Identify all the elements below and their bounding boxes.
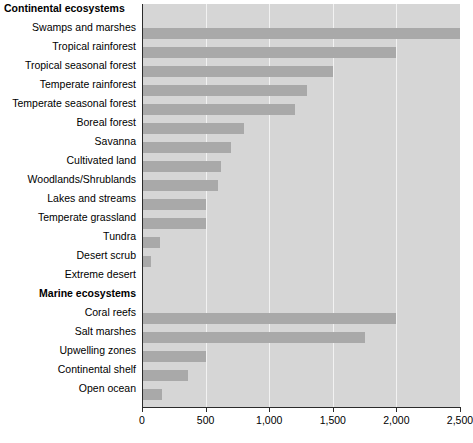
y-axis-line <box>142 4 143 408</box>
bar <box>142 142 231 153</box>
bar <box>142 180 218 191</box>
category-label: Savanna <box>0 135 136 147</box>
axis-tick-label: 2,500 <box>447 414 473 426</box>
bar <box>142 199 206 210</box>
category-label: Cultivated land <box>0 154 136 166</box>
bar <box>142 28 460 39</box>
category-label: Open ocean <box>0 382 136 394</box>
bar <box>142 123 244 134</box>
category-label: Continental shelf <box>0 363 136 375</box>
category-label: Temperate seasonal forest <box>0 97 136 109</box>
category-label: Desert scrub <box>0 249 136 261</box>
category-label-column: Continental ecosystemsSwamps and marshes… <box>0 0 139 411</box>
bar <box>142 389 162 400</box>
x-axis-line <box>142 407 461 408</box>
bar <box>142 161 221 172</box>
bar <box>142 256 151 267</box>
bar <box>142 237 160 248</box>
category-label: Temperate grassland <box>0 211 136 223</box>
category-label: Boreal forest <box>0 116 136 128</box>
bar <box>142 104 295 115</box>
category-label: Salt marshes <box>0 325 136 337</box>
gridline <box>269 4 270 407</box>
category-label: Upwelling zones <box>0 344 136 356</box>
axis-tick <box>460 407 461 412</box>
category-label: Tropical rainforest <box>0 40 136 52</box>
axis-tick <box>333 407 334 412</box>
axis-tick <box>396 407 397 412</box>
bar <box>142 47 396 58</box>
axis-tick-label: 1,000 <box>256 414 282 426</box>
bar <box>142 351 206 362</box>
category-label: Coral reefs <box>0 306 136 318</box>
category-label: Woodlands/Shrublands <box>0 173 136 185</box>
bar <box>142 218 206 229</box>
category-label: Tundra <box>0 230 136 242</box>
gridline <box>396 4 397 407</box>
group-header-label: Marine ecosystems <box>0 287 136 299</box>
bar <box>142 313 396 324</box>
bar-chart: Continental ecosystemsSwamps and marshes… <box>0 0 473 443</box>
category-label: Temperate rainforest <box>0 78 136 90</box>
group-header-label: Continental ecosystems <box>4 2 140 14</box>
axis-tick <box>206 407 207 412</box>
bar <box>142 332 365 343</box>
axis-tick <box>142 407 143 412</box>
axis-tick <box>269 407 270 412</box>
bar <box>142 85 307 96</box>
axis-tick-label: 1,500 <box>320 414 346 426</box>
category-label: Lakes and streams <box>0 192 136 204</box>
axis-tick-label: 500 <box>197 414 215 426</box>
bar <box>142 370 188 381</box>
axis-tick-label: 2,000 <box>383 414 409 426</box>
plot-area <box>142 4 460 407</box>
gridline <box>333 4 334 407</box>
gridline <box>206 4 207 407</box>
axis-tick-label: 0 <box>139 414 145 426</box>
category-label: Tropical seasonal forest <box>0 59 136 71</box>
bar <box>142 66 333 77</box>
category-label: Extreme desert <box>0 268 136 280</box>
category-label: Swamps and marshes <box>0 21 136 33</box>
